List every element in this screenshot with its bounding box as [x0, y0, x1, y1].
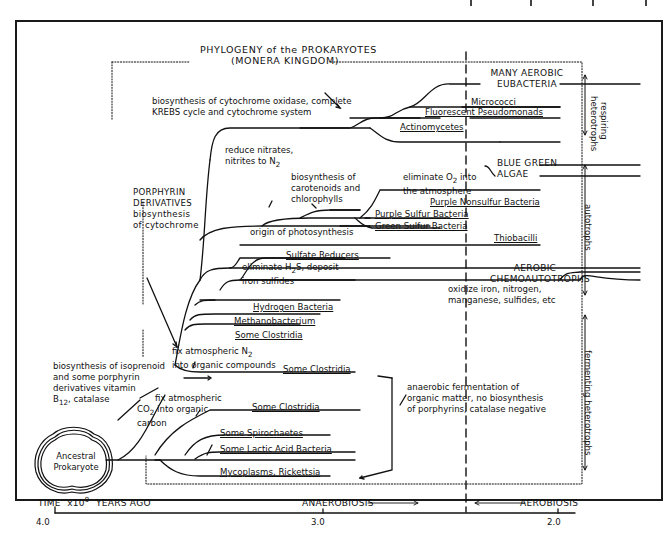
- annotation-fix-n2: fix atmospheric N2 into organic compound…: [172, 346, 276, 371]
- annotation-eliminate-h2s: eliminate H2S, deposit iron sulfides: [242, 262, 339, 287]
- annotation-eliminate-o2: eliminate O2 into the atmosphere: [403, 172, 476, 197]
- annotation-line: the atmosphere: [403, 186, 476, 197]
- lineage-line: MANY AEROBIC: [487, 68, 567, 79]
- annotation-line: biosynthesis of: [291, 172, 360, 183]
- title-line-2: (MONERA KINGDOM): [200, 55, 370, 66]
- group-fermenting-heterotrophs: fermenting heterotrophs: [583, 350, 593, 456]
- time-label: TIME x10: [38, 498, 85, 508]
- lineage-mycoplasms-rickettsia: Mycoplasms, Rickettsia: [220, 467, 320, 478]
- tick-label-3: 3.0: [311, 517, 325, 528]
- annotation-line: biosynthesis of isoprenoid: [53, 361, 165, 372]
- lineage-some-clostridia-2: Some Clostridia: [283, 364, 351, 375]
- lineage-line: CHEMOAUTOTROPHS: [490, 274, 580, 285]
- lineage-some-lactic-acid-bacteria: Some Lactic Acid Bacteria: [220, 444, 332, 455]
- annotation-line: PORPHYRIN: [133, 187, 199, 198]
- lineage-actinomycetes: Actinomycetes: [400, 122, 464, 133]
- annotation-porphyrin: PORPHYRIN DERIVATIVES biosynthesis of cy…: [133, 187, 199, 231]
- lineage-line: BLUE GREEN: [497, 158, 557, 169]
- annotation-anaerobic-fermentation: anaerobic fermentation of organic matter…: [407, 382, 546, 415]
- group-autotrophs: autotrophs: [583, 204, 593, 251]
- annotation-line: KREBS cycle and cytochrome system: [152, 107, 351, 118]
- lineage-line: EUBACTERIA: [487, 79, 567, 90]
- annotation-line: fix atmospheric N: [172, 346, 248, 356]
- lineage-aerobic-chemoautotrophs: AEROBIC CHEMOAUTOTROPHS: [490, 263, 580, 285]
- lineage-line: ALGAE: [497, 169, 557, 180]
- annotation-line: biosynthesis: [133, 209, 199, 220]
- lineage-hydrogen-bacteria: Hydrogen Bacteria: [253, 302, 333, 313]
- lineage-some-spirochaetes: Some Spirochaetes: [220, 428, 303, 439]
- annotation-line: anaerobic fermentation of: [407, 382, 546, 393]
- annotation-line: manganese, sulfides, etc: [448, 295, 556, 306]
- annotation-line: eliminate O: [403, 172, 453, 182]
- lineage-line: AEROBIC: [490, 263, 580, 274]
- annotation-oxidize-iron: oxidize iron, nitrogen, manganese, sulfi…: [448, 284, 556, 306]
- annotation-line: eliminate H: [242, 262, 291, 272]
- root-line: Prokaryote: [48, 462, 104, 473]
- annotation-cytochrome-oxidase: biosynthesis of cytochrome oxidase, comp…: [152, 96, 351, 118]
- annotation-line: carotenoids and: [291, 183, 360, 194]
- time-axis-label: TIME x109 YEARS AGO: [38, 495, 151, 509]
- annotation-line: into organic compounds: [172, 360, 276, 371]
- anaerobiosis-label: ANAEROBIOSIS: [302, 498, 374, 509]
- annotation-line: reduce nitrates,: [225, 145, 293, 156]
- annotation-fix-co2: fix atmospheric CO2 into organic carbon: [137, 393, 222, 429]
- annotation-line: nitrites to N: [225, 156, 276, 166]
- annotation-line: S, deposit: [296, 262, 339, 272]
- annotation-line: fix atmospheric: [137, 393, 222, 404]
- lineage-purple-nonsulfur-bacteria: Purple Nonsulfur Bacteria: [430, 197, 540, 208]
- annotation-line: into organic: [154, 404, 208, 414]
- group-respiring-heterotrophs: respiring heterotrophs: [589, 96, 609, 151]
- root-line: Ancestral: [48, 451, 104, 462]
- annotation-line: biosynthesis of cytochrome oxidase, comp…: [152, 96, 351, 107]
- annotation-origin-photosynthesis: origin of photosynthesis: [250, 227, 353, 238]
- lineage-some-clostridia-1: Some Clostridia: [235, 330, 303, 341]
- group-line: respiring: [599, 96, 609, 151]
- annotation-carotenoids: biosynthesis of carotenoids and chloroph…: [291, 172, 360, 205]
- lineage-blue-green-algae: BLUE GREEN ALGAE: [497, 158, 557, 180]
- subscript: 2: [276, 160, 281, 169]
- subscript: 2: [248, 350, 253, 359]
- annotation-line: , catalase: [68, 394, 110, 404]
- subscript: 12: [59, 398, 68, 407]
- lineage-some-clostridia-3: Some Clostridia: [252, 402, 320, 413]
- annotation-line: DERIVATIVES: [133, 198, 199, 209]
- tick-label-4: 4.0: [36, 517, 50, 528]
- annotation-line: into: [457, 172, 476, 182]
- title-line-1: PHYLOGENY of the PROKARYOTES: [200, 44, 370, 55]
- lineage-thiobacilli: Thiobacilli: [494, 233, 537, 244]
- annotation-line: organic matter, no biosynthesis: [407, 393, 546, 404]
- lineage-fluorescent-pseudomonads: Fluorescent Pseudomonads: [425, 107, 543, 118]
- annotation-line: oxidize iron, nitrogen,: [448, 284, 556, 295]
- annotation-line: of porphyrins, catalase negative: [407, 404, 546, 415]
- tick-label-2: 2.0: [547, 517, 561, 528]
- ancestral-prokaryote-label: Ancestral Prokaryote: [48, 451, 104, 473]
- aerobiosis-label: AEROBIOSIS: [520, 498, 578, 509]
- annotation-line: chlorophylls: [291, 194, 360, 205]
- annotation-line: iron sulfides: [242, 276, 339, 287]
- time-label-tail: YEARS AGO: [90, 498, 151, 508]
- annotation-line: carbon: [137, 418, 222, 429]
- lineage-sulfate-reducers: Sulfate Reducers: [286, 250, 359, 261]
- annotation-line: of cytochrome: [133, 220, 199, 231]
- lineage-many-aerobic-eubacteria: MANY AEROBIC EUBACTERIA: [487, 68, 567, 90]
- lineage-methanobacterium: Methanobacterium: [234, 316, 315, 327]
- annotation-line: and some porphyrin: [53, 372, 165, 383]
- diagram-title: PHYLOGENY of the PROKARYOTES (MONERA KIN…: [200, 44, 370, 66]
- lineage-green-sulfur-bacteria: Green Sulfur Bacteria: [375, 221, 468, 232]
- annotation-line: CO: [137, 404, 150, 414]
- lineage-purple-sulfur-bacteria: Purple Sulfur Bacteria: [375, 209, 469, 220]
- group-line: heterotrophs: [589, 96, 599, 151]
- annotation-reduce-nitrates: reduce nitrates, nitrites to N2: [225, 145, 293, 170]
